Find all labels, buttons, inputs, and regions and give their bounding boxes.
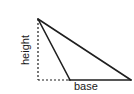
base-label: base (74, 81, 98, 92)
triangle-left-side (38, 19, 70, 80)
height-label: height (20, 24, 31, 76)
triangle-diagram: height base (0, 0, 134, 94)
triangle-hypotenuse-side (38, 19, 131, 80)
